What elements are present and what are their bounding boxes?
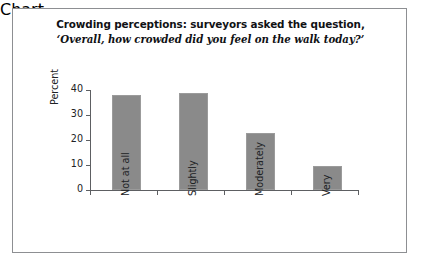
chart-title-line-2: ‘Overall, how crowded did you feel on th… [13,32,408,47]
y-tick-mark [86,140,90,141]
y-tick-mark [86,115,90,116]
y-tick-label: 30 [71,108,83,119]
x-category-label-very: Very [321,175,332,196]
x-tick-mark [90,191,91,195]
y-tick-label: 10 [71,158,83,169]
x-tick-mark [291,191,292,195]
x-tick-mark [358,191,359,195]
y-tick-mark [86,165,90,166]
y-tick-mark [86,90,90,91]
y-tick-label: 40 [71,83,83,94]
x-category-label-not-at-all: Not at all [120,152,131,196]
y-axis-label: Percent [49,69,60,105]
chart-title-line-1: Crowding perceptions: surveyors asked th… [13,17,408,32]
y-tick-label: 0 [77,183,83,194]
x-category-label-moderately: Moderately [254,142,265,196]
x-tick-mark [157,191,158,195]
y-tick-label: 20 [71,133,83,144]
x-tick-mark [224,191,225,195]
x-category-label-slightly: Slightly [187,160,198,196]
chart-title: Crowding perceptions: surveyors asked th… [13,17,408,47]
chart-figure: Crowding perceptions: surveyors asked th… [12,8,407,253]
y-axis-line [90,90,91,191]
plot-area: 0 10 20 30 40 Not at all Slightl [90,90,358,190]
